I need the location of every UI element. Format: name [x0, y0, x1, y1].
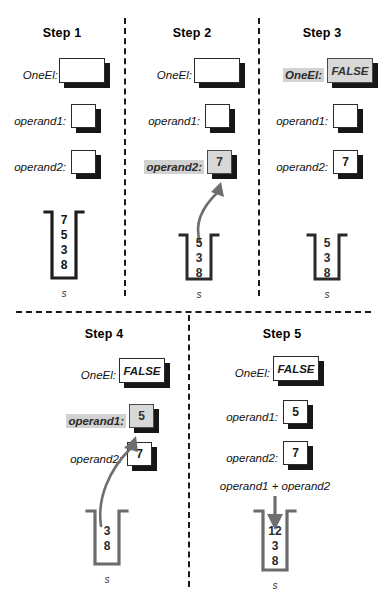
variable-row-oneel: OneEl:	[138, 60, 194, 90]
variable-box-oneel[interactable]: FALSE	[273, 356, 326, 388]
step-title: Step 4	[20, 327, 188, 341]
stack-item: 5	[43, 228, 85, 243]
variable-label-operand1: operand1:	[146, 114, 202, 128]
variable-row-oneel: OneEl:	[216, 358, 272, 388]
stack-items: 3 8	[85, 508, 129, 554]
variable-box-operand2[interactable]: 7	[333, 150, 368, 182]
variable-box-operand1[interactable]: 5	[129, 404, 164, 436]
variable-label-operand2: operand2:	[144, 160, 204, 174]
step-title: Step 2	[128, 26, 256, 40]
stack-s: 3 8 s	[85, 508, 129, 574]
stack-label: s	[253, 580, 297, 591]
variable-label-oneel: OneEl:	[233, 366, 272, 380]
box-face: 5	[129, 404, 154, 428]
variable-label-operand1: operand1:	[224, 410, 280, 424]
divider-vertical-step2-step3	[258, 18, 260, 296]
variable-box-operand2[interactable]: 7	[207, 150, 242, 182]
variable-box-oneel[interactable]	[59, 58, 112, 90]
variable-row-oneel: OneEl:	[62, 360, 118, 390]
stack-s: 7 5 3 8 s	[43, 209, 85, 287]
stack-items: 12 3 8	[253, 508, 297, 569]
box-face	[71, 150, 96, 174]
stack-item: 12	[253, 524, 297, 539]
divider-horizontal-rows	[16, 311, 371, 313]
variable-row-oneel: OneEl:	[4, 60, 60, 90]
variable-row-oneel: OneEl:	[266, 60, 324, 90]
variable-label-operand2: operand2:	[274, 160, 330, 174]
stack-items: 5 3 8	[178, 232, 220, 281]
variable-row-operand2: operand2:	[56, 444, 124, 474]
stack-item: 5	[178, 236, 220, 251]
variable-label-operand2: operand2:	[68, 452, 124, 466]
box-face: FALSE	[273, 356, 319, 381]
variable-box-operand1[interactable]	[205, 104, 240, 136]
variable-label-operand1: operand1:	[274, 114, 330, 128]
box-face	[194, 58, 240, 83]
stack-s: 12 3 8 s	[253, 508, 297, 580]
stack-label: s	[43, 288, 85, 299]
variable-row-operand1: operand1:	[0, 106, 68, 136]
variable-label-oneel: OneEl:	[155, 68, 194, 82]
stack-item: 3	[178, 251, 220, 266]
variable-row-operand1: operand1:	[134, 106, 202, 136]
variable-row-operand2: operand2:	[134, 152, 204, 182]
stack-item: 3	[85, 524, 129, 539]
box-face: 7	[333, 150, 358, 174]
variable-label-operand1: operand1:	[12, 114, 68, 128]
box-face: 7	[127, 442, 152, 466]
stack-s: 5 3 8 s	[306, 232, 348, 287]
variable-box-operand2[interactable]	[71, 150, 106, 182]
variable-label-operand1: operand1:	[66, 414, 126, 428]
stack-item: 5	[306, 236, 348, 251]
stack-item: 7	[43, 213, 85, 228]
variable-box-operand1[interactable]	[333, 104, 368, 136]
stack-item: 3	[306, 251, 348, 266]
variable-row-operand2: operand2:	[262, 152, 330, 182]
variable-row-operand1: operand1:	[212, 402, 280, 432]
box-face	[333, 104, 358, 128]
variable-box-oneel[interactable]: FALSE	[119, 358, 172, 390]
variable-box-operand2[interactable]: 7	[127, 442, 162, 474]
stack-label: s	[85, 574, 129, 585]
variable-box-oneel[interactable]	[194, 58, 247, 90]
stack-label: s	[306, 289, 348, 300]
variable-box-operand1[interactable]: 5	[283, 400, 318, 432]
variable-label-oneel: OneEl:	[21, 68, 60, 82]
step-title: Step 1	[0, 26, 124, 40]
stack-item: 8	[85, 539, 129, 554]
box-face	[205, 104, 230, 128]
divider-vertical-step4-step5	[188, 315, 190, 587]
variable-label-oneel: OneEl:	[283, 68, 324, 82]
stack-items: 5 3 8	[306, 232, 348, 281]
stack-item: 3	[253, 539, 297, 554]
stack-item: 3	[43, 243, 85, 258]
stack-item: 8	[178, 266, 220, 281]
box-face: FALSE	[119, 358, 165, 383]
variable-box-operand2[interactable]: 7	[283, 441, 318, 473]
stack-item: 8	[43, 258, 85, 273]
step-title: Step 3	[262, 26, 382, 40]
variable-row-operand1: operand1:	[262, 106, 330, 136]
box-face: FALSE	[327, 58, 373, 83]
variable-row-operand2: operand2:	[212, 443, 280, 473]
variable-row-operand1: operand1:	[56, 406, 126, 436]
variable-box-oneel[interactable]: FALSE	[327, 58, 380, 90]
variable-row-operand2: operand2:	[0, 152, 68, 182]
box-face	[59, 58, 105, 83]
box-face: 7	[207, 150, 232, 174]
variable-label-operand2: operand2:	[12, 160, 68, 174]
variable-label-oneel: OneEl:	[79, 368, 118, 382]
expression-label: operand1 + operand2	[205, 480, 345, 492]
stack-item: 8	[306, 266, 348, 281]
variable-box-operand1[interactable]	[71, 104, 106, 136]
stack-s: 5 3 8 s	[178, 232, 220, 287]
step-title: Step 5	[192, 327, 372, 341]
box-face	[71, 104, 96, 128]
divider-vertical-step1-step2	[124, 18, 126, 296]
stack-items: 7 5 3 8	[43, 209, 85, 273]
figure-canvas: Step 1 OneEl: operand1: operand2:	[0, 0, 385, 593]
stack-item: 8	[253, 554, 297, 569]
box-face: 5	[283, 400, 308, 424]
stack-label: s	[178, 289, 220, 300]
box-face: 7	[283, 441, 308, 465]
